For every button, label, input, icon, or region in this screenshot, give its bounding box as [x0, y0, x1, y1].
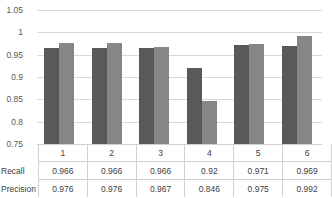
plot-area: 1.0510.950.90.850.80.75: [37, 10, 322, 144]
bar-precision: [249, 44, 264, 145]
y-axis-tick-label: 0.9: [0, 73, 23, 82]
bar-recall: [44, 48, 59, 144]
data-table: 123456Recall0.9660.9660.9660.920.9710.96…: [0, 144, 332, 197]
table-cell: 0.976: [87, 180, 136, 198]
bar-recall: [282, 46, 297, 144]
bar-recall: [187, 68, 202, 144]
bar-group: [132, 10, 180, 144]
table-row: Precision0.9760.9760.9670.8460.9750.992: [0, 180, 332, 198]
table-corner-cell: [0, 144, 38, 162]
y-axis-tick-label: 0.85: [0, 95, 23, 104]
y-axis-tick-label: 1.05: [0, 6, 23, 15]
table-cell: 0.992: [283, 180, 332, 198]
bars-layer: [37, 10, 322, 144]
y-axis-tick-label: 1: [0, 28, 23, 37]
table-cell: 0.967: [136, 180, 185, 198]
table-category-header: 3: [136, 144, 185, 162]
table-category-header: 6: [283, 144, 332, 162]
table-cell: 0.966: [87, 162, 136, 180]
table-row-label: Recall: [0, 162, 38, 180]
bar-group: [227, 10, 275, 144]
bar-group: [85, 10, 133, 144]
table-cell: 0.92: [185, 162, 234, 180]
bar-recall: [92, 48, 107, 144]
bar-recall: [139, 48, 154, 144]
bar-precision: [107, 43, 122, 144]
bar-precision: [297, 36, 312, 144]
bar-precision: [202, 101, 217, 144]
table-cell: 0.966: [136, 162, 185, 180]
table-cell: 0.976: [38, 180, 87, 198]
table-cell: 0.846: [185, 180, 234, 198]
table-row: Recall0.9660.9660.9660.920.9710.969: [0, 162, 332, 180]
table-category-header: 5: [234, 144, 283, 162]
table-row-label: Precision: [0, 180, 38, 198]
table-cell: 0.975: [234, 180, 283, 198]
y-axis-tick-label: 0.95: [0, 51, 23, 60]
table-cell: 0.969: [283, 162, 332, 180]
bar-precision: [59, 43, 74, 144]
table-row-categories: 123456: [0, 144, 332, 162]
data-table-body: 123456Recall0.9660.9660.9660.920.9710.96…: [0, 144, 332, 197]
bar-group: [275, 10, 323, 144]
table-cell: 0.971: [234, 162, 283, 180]
table-cell: 0.966: [38, 162, 87, 180]
bar-chart-with-data-table: 1.0510.950.90.850.80.75 123456Recall0.96…: [0, 0, 332, 197]
bar-group: [37, 10, 85, 144]
table-category-header: 4: [185, 144, 234, 162]
y-axis-tick-label: 0.8: [0, 118, 23, 127]
table-category-header: 2: [87, 144, 136, 162]
bar-recall: [234, 45, 249, 144]
bar-group: [180, 10, 228, 144]
table-category-header: 1: [38, 144, 87, 162]
bar-precision: [154, 47, 169, 144]
